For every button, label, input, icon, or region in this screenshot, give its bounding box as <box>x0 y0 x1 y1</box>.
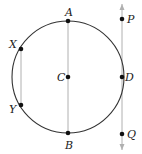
label-p: P <box>126 13 135 26</box>
label-c: C <box>57 71 66 84</box>
geometry-diagram: ABCDXYPQ <box>0 0 142 154</box>
label-y: Y <box>9 103 18 116</box>
arrow-down-icon <box>120 144 125 150</box>
label-b: B <box>64 139 73 152</box>
labels-layer: ABCDXYPQ <box>8 6 136 152</box>
lines-layer <box>21 4 125 150</box>
label-a: A <box>64 6 73 19</box>
point-q <box>120 132 125 137</box>
point-p <box>120 17 125 22</box>
label-q: Q <box>127 128 136 141</box>
point-a <box>66 19 71 24</box>
arrow-up-icon <box>120 4 125 10</box>
point-x <box>19 47 24 52</box>
point-b <box>66 131 71 136</box>
points-layer <box>19 17 125 137</box>
label-d: D <box>124 71 134 84</box>
point-d <box>120 75 125 80</box>
label-x: X <box>8 38 18 51</box>
point-y <box>19 103 24 108</box>
point-c <box>66 75 71 80</box>
